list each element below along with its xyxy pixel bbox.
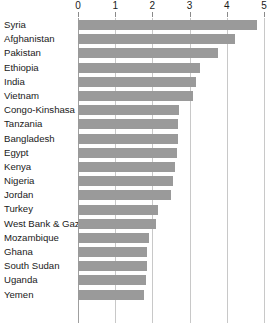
bar	[78, 261, 147, 271]
x-tick-mark-5	[264, 12, 265, 17]
bar-row: Ghana	[0, 245, 271, 259]
category-label: Afghanistan	[4, 32, 55, 46]
bar-row: Congo-Kinshasa	[0, 103, 271, 117]
bar-row: Ethiopia	[0, 61, 271, 75]
bar-row: Yemen	[0, 288, 271, 302]
bar-row: Kenya	[0, 160, 271, 174]
category-label: Yemen	[4, 288, 34, 302]
bar-row: Bangladesh	[0, 132, 271, 146]
bar-row: Vietnam	[0, 89, 271, 103]
category-label: Congo-Kinshasa	[4, 103, 75, 117]
bar	[78, 247, 147, 257]
category-label: Turkey	[4, 202, 33, 216]
x-tick-mark-3	[190, 12, 191, 17]
bar	[78, 134, 178, 144]
bar	[78, 275, 146, 285]
bar	[78, 48, 218, 58]
bar-row: Egypt	[0, 146, 271, 160]
category-label: Vietnam	[4, 89, 39, 103]
bar-row: Syria	[0, 18, 271, 32]
category-label: West Bank & Gaza	[4, 217, 85, 231]
x-tick-mark-2	[152, 12, 153, 17]
bar	[78, 290, 144, 300]
bar-row: Tanzania	[0, 117, 271, 131]
x-tick-label-0: 0	[75, 0, 81, 12]
bar-row: Pakistan	[0, 46, 271, 60]
category-label: Tanzania	[4, 117, 42, 131]
category-label: Ethiopia	[4, 61, 39, 75]
bar	[78, 34, 235, 44]
bar-chart: 012345 SyriaAfghanistanPakistanEthiopiaI…	[0, 0, 271, 329]
category-label: Uganda	[4, 273, 38, 287]
bar-row: Turkey	[0, 202, 271, 216]
category-label: Egypt	[4, 146, 29, 160]
bar-row: Mozambique	[0, 231, 271, 245]
category-label: Jordan	[4, 188, 33, 202]
category-label: Mozambique	[4, 231, 59, 245]
bar-row: India	[0, 75, 271, 89]
category-label: Kenya	[4, 160, 31, 174]
bar	[78, 219, 156, 229]
bar	[78, 176, 173, 186]
category-label: India	[4, 75, 25, 89]
bar	[78, 190, 171, 200]
bar	[78, 205, 158, 215]
category-label: Ghana	[4, 245, 33, 259]
bar	[78, 119, 178, 129]
bar	[78, 77, 196, 87]
bar-row: Jordan	[0, 188, 271, 202]
category-label: Nigeria	[4, 174, 34, 188]
x-tick-label-4: 4	[224, 0, 230, 12]
category-label: South Sudan	[4, 259, 59, 273]
x-tick-label-1: 1	[112, 0, 118, 12]
x-tick-mark-0	[78, 12, 79, 17]
x-tick-label-2: 2	[150, 0, 156, 12]
category-label: Syria	[4, 18, 26, 32]
x-tick-label-5: 5	[261, 0, 267, 12]
bar-rows: SyriaAfghanistanPakistanEthiopiaIndiaVie…	[0, 18, 271, 302]
bar-row: West Bank & Gaza	[0, 217, 271, 231]
x-tick-mark-1	[115, 12, 116, 17]
bar	[78, 63, 200, 73]
bar-row: Uganda	[0, 273, 271, 287]
bar	[78, 91, 193, 101]
bar	[78, 20, 257, 30]
bar	[78, 105, 179, 115]
bar	[78, 148, 177, 158]
x-tick-mark-4	[227, 12, 228, 17]
bar-row: Nigeria	[0, 174, 271, 188]
category-label: Bangladesh	[4, 132, 55, 146]
bar	[78, 233, 149, 243]
category-label: Pakistan	[4, 46, 41, 60]
bar-row: Afghanistan	[0, 32, 271, 46]
bar-row: South Sudan	[0, 259, 271, 273]
bar	[78, 162, 175, 172]
x-tick-label-3: 3	[187, 0, 193, 12]
